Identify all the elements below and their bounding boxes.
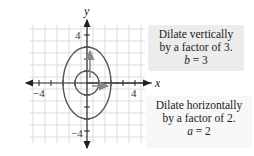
vertical-dilation-note: Dilate vertically by a factor of 3. b = … xyxy=(148,25,244,71)
x-tick-label-neg4: −4 xyxy=(33,87,45,99)
x-axis-label: x xyxy=(154,76,160,90)
y-tick-label-neg4: −4 xyxy=(71,127,83,139)
equation-value: = 2 xyxy=(193,125,211,137)
note-equation: b = 3 xyxy=(148,54,244,67)
note-line: by a factor of 3. xyxy=(148,41,244,54)
coordinate-graph: y x 4 −4 −4 4 xyxy=(0,0,160,156)
note-line: by a factor of 2. xyxy=(146,112,252,125)
x-tick-label-4: 4 xyxy=(131,87,137,99)
y-axis-label: y xyxy=(83,4,90,18)
horizontal-dilation-note: Dilate horizontally by a factor of 2. a … xyxy=(146,96,252,148)
note-line: Dilate vertically xyxy=(148,28,244,41)
equation-value: = 3 xyxy=(190,54,208,66)
y-tick-label-4: 4 xyxy=(75,29,81,41)
note-equation: a = 2 xyxy=(146,125,252,138)
note-line: Dilate horizontally xyxy=(146,99,252,112)
